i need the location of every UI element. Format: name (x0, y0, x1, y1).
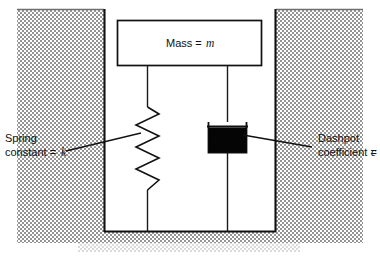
mass-label-text: Mass = (166, 37, 202, 49)
mass-label-symbol: m (206, 37, 214, 49)
dashpot-damper-block (209, 128, 246, 152)
dashpot-label-line1: Dashpot (318, 132, 359, 144)
scan-smudge-band (78, 243, 300, 252)
spring (136, 107, 159, 190)
spring-coil (136, 107, 159, 190)
spring-label-line1: Spring (5, 132, 37, 144)
dashpot (207, 122, 248, 153)
spring-label-line2: constant = (5, 146, 56, 158)
figure-root: Mass = m Spring constant = k Dashpot coe… (0, 0, 380, 263)
dashpot-label-line2: coefficient = (318, 146, 377, 158)
mass-spring-dashpot-diagram: Mass = m Spring constant = k Dashpot coe… (0, 0, 380, 263)
spring-label-symbol: k (61, 146, 67, 158)
mass-label: Mass = m (166, 37, 214, 49)
dashpot-label-symbol: c (371, 146, 376, 158)
